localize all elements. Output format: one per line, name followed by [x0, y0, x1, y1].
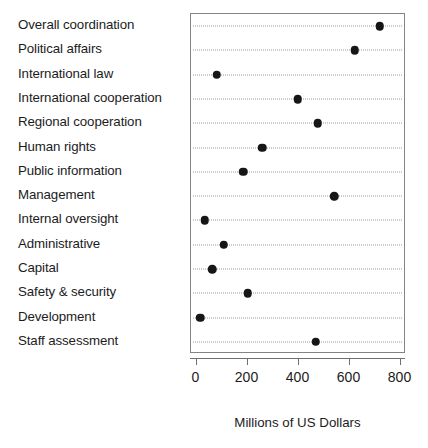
category-label: Development: [18, 310, 190, 323]
x-axis-tick: [247, 358, 248, 365]
data-point: [258, 143, 267, 152]
category-label: Safety & security: [18, 286, 190, 299]
gridline: [193, 220, 402, 221]
gridline: [193, 50, 402, 51]
category-label: Human rights: [18, 140, 190, 153]
data-point: [330, 192, 339, 201]
data-point: [208, 265, 217, 274]
gridline: [193, 293, 402, 294]
x-axis-title: Millions of US Dollars: [190, 415, 405, 430]
dot-plot-chart: Overall coordinationPolitical affairsInt…: [0, 0, 428, 448]
category-label: Management: [18, 188, 190, 201]
data-point: [219, 240, 228, 249]
data-point: [213, 70, 222, 79]
category-axis-labels: Overall coordinationPolitical affairsInt…: [18, 13, 190, 353]
x-axis-tick-label: 800: [388, 369, 411, 385]
x-axis-tick: [298, 358, 299, 365]
gridline: [193, 196, 402, 197]
category-label: International cooperation: [18, 91, 190, 104]
gridline: [193, 171, 402, 172]
x-axis: 0200400600800: [190, 358, 405, 359]
gridline: [193, 26, 402, 27]
category-label: International law: [18, 67, 190, 80]
plot-inner: [191, 14, 404, 352]
data-point: [350, 46, 359, 55]
gridline: [193, 317, 402, 318]
x-axis-tick: [400, 358, 401, 365]
gridline: [193, 341, 402, 342]
category-label: Capital: [18, 261, 190, 274]
plot-area: [190, 13, 405, 353]
gridline: [193, 269, 402, 270]
category-label: Political affairs: [18, 43, 190, 56]
x-axis-tick-label: 600: [337, 369, 360, 385]
x-axis-tick-label: 400: [286, 369, 309, 385]
x-axis-tick-label: 0: [192, 369, 200, 385]
category-label: Regional cooperation: [18, 116, 190, 129]
data-point: [200, 216, 209, 225]
data-point: [375, 22, 384, 31]
category-label: Administrative: [18, 237, 190, 250]
category-label: Staff assessment: [18, 334, 190, 347]
data-point: [293, 95, 302, 104]
x-axis-tick-label: 200: [235, 369, 258, 385]
gridline: [193, 74, 402, 75]
data-point: [239, 168, 248, 177]
data-point: [196, 313, 205, 322]
x-axis-tick: [349, 358, 350, 365]
data-point: [244, 289, 253, 298]
gridline: [193, 123, 402, 124]
data-point: [311, 338, 320, 347]
gridline: [193, 147, 402, 148]
category-label: Internal oversight: [18, 213, 190, 226]
x-axis-tick: [196, 358, 197, 365]
category-label: Overall coordination: [18, 18, 190, 31]
data-point: [313, 119, 322, 128]
category-label: Public information: [18, 164, 190, 177]
